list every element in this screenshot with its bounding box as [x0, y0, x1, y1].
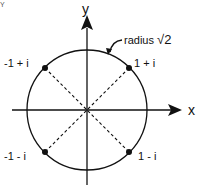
point-1-plus-i [126, 65, 132, 71]
y-axis-label: y [82, 2, 89, 16]
complex-plane-diagram [0, 0, 200, 185]
label-minus-1-plus-i: -1 + i [4, 58, 29, 69]
radius-text: radius [124, 34, 154, 46]
radius-label: radius √2 [124, 33, 171, 46]
point-minus-1-minus-i [42, 149, 48, 155]
label-minus-1-minus-i: -1 - i [4, 151, 26, 162]
radius-value: √2 [157, 32, 171, 47]
x-axis-label: x [188, 103, 195, 117]
radius-pointer-arrow [110, 40, 122, 52]
point-minus-1-plus-i [42, 65, 48, 71]
y-axis-arrow-icon [81, 15, 93, 30]
label-1-plus-i: 1 + i [134, 58, 155, 69]
label-1-minus-i: 1 - i [138, 151, 156, 162]
point-1-minus-i [126, 149, 132, 155]
